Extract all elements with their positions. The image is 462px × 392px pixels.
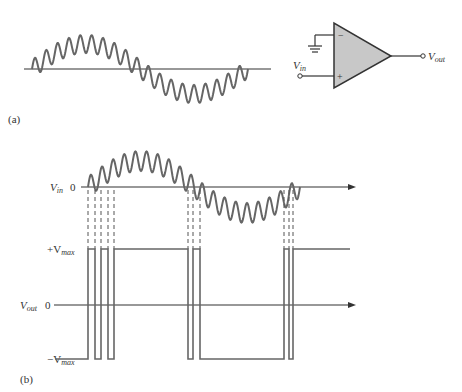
vout-axis-label: Vout — [20, 299, 38, 313]
inverting-input-symbol: − — [338, 30, 344, 41]
input-terminal — [298, 74, 302, 78]
vin-zero-label: 0 — [70, 181, 76, 193]
vout-axis-arrow-icon — [348, 302, 356, 308]
vout-label: Vout — [428, 50, 446, 64]
opamp-circuit: − + Vin Vout — [293, 23, 446, 88]
panel-b-label: (b) — [20, 373, 33, 386]
panel-b: Vin 0 Vout 0 +Vmax −Vmax (b) — [20, 151, 356, 386]
vin-axis-arrow-icon — [348, 184, 356, 190]
vout-zero-label: 0 — [45, 299, 51, 311]
panel-a-label: (a) — [8, 113, 21, 126]
vout-square-wave — [55, 249, 350, 359]
panel-a: (a) — [8, 35, 271, 126]
neg-vmax-label: −Vmax — [47, 353, 75, 367]
output-terminal — [421, 54, 425, 58]
vin-axis-label: Vin — [50, 181, 63, 195]
vin-label: Vin — [293, 59, 306, 73]
pos-vmax-label: +Vmax — [47, 243, 75, 257]
noninverting-input-symbol: + — [337, 71, 343, 82]
ground-icon — [308, 35, 334, 52]
comparator-diagram: (a) − + Vin Vout Vin 0 Vo — [0, 0, 462, 392]
